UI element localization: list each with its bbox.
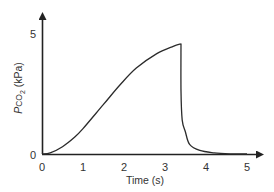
x-tick-label: 2 (121, 161, 127, 173)
y-tick-label: 5 (30, 28, 36, 40)
x-axis-label: Time (s) (126, 174, 164, 186)
x-tick-label: 5 (244, 161, 250, 173)
x-tick-label: 1 (80, 161, 86, 173)
y-axis-label: PCO2 (kPa) (12, 62, 26, 114)
x-tick-label: 4 (203, 161, 209, 173)
pco2-curve (42, 44, 247, 154)
x-tick-label: 0 (39, 161, 45, 173)
y-tick-label: 0 (30, 149, 36, 161)
svg-text:PCO2 (kPa): PCO2 (kPa) (12, 62, 26, 114)
x-tick-label: 3 (162, 161, 168, 173)
chart: 5 0 0 1 2 3 4 5 Time (s) PCO2 (kPa) (0, 0, 274, 192)
